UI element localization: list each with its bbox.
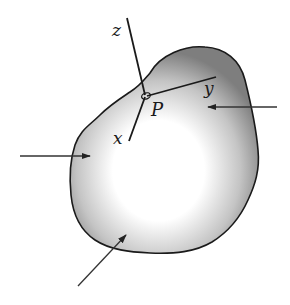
deformable-body: [70, 47, 258, 253]
y-axis-label: y: [203, 78, 214, 98]
z-axis: [127, 18, 145, 95]
x-axis-label: x: [113, 128, 123, 148]
point-p-label: P: [150, 99, 164, 120]
diagram-canvas: z y x P: [0, 0, 290, 305]
z-axis-label: z: [111, 20, 122, 40]
